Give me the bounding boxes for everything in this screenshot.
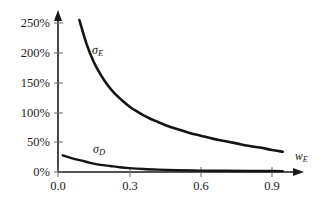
x-tick-label-0.3: 0.3 [110,180,150,193]
y-tick-label-250: 250% [0,17,50,30]
axes-group [54,10,304,176]
y-tick-label-0: 0% [0,166,50,179]
x-axis-arrowhead [293,168,304,176]
y-axis-arrowhead [54,10,62,21]
y-tick-label-100: 100% [0,107,50,120]
x-tick-label-0.9: 0.9 [252,180,292,193]
sigma-D-label: σD [93,143,105,155]
y-tick-label-50: 50% [0,136,50,149]
y-tick-label-150: 150% [0,77,50,90]
x-axis-title: wE [295,151,308,163]
x-tick-label-0.6: 0.6 [181,180,221,193]
sigma-E-subscript: E [98,48,103,58]
sigma-D-subscript: D [99,147,105,157]
x-tick-label-0: 0.0 [38,180,78,193]
x-axis-title-symbol: w [295,150,303,162]
series-line-sigma-D [63,155,283,171]
x-axis-title-subscript: E [303,155,308,164]
chart-figure: 0% 50% 100% 150% 200% 250% 0.0 0.3 0.6 0… [0,0,325,206]
sigma-E-label: σE [92,44,103,56]
series-line-sigma-E [79,20,282,152]
y-tick-label-200: 200% [0,47,50,60]
